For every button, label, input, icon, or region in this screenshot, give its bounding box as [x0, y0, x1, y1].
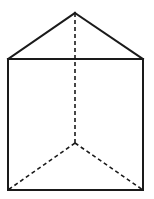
hidden-edge-back_bottom-bottom_left: [8, 143, 75, 190]
solid-edges: [8, 13, 143, 190]
prism-diagram: [0, 0, 154, 199]
hidden-edges: [8, 13, 143, 190]
edge-top_left-apex_top: [8, 13, 75, 59]
edge-apex_top-top_right: [75, 13, 143, 59]
hidden-edge-back_bottom-bottom_right: [75, 143, 143, 190]
